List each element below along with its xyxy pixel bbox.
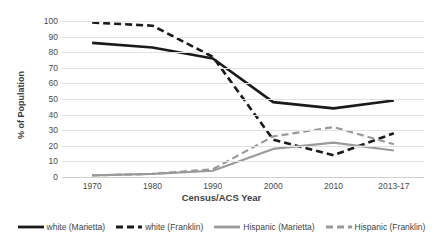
gridlines	[62, 21, 424, 177]
legend-swatch-icon	[214, 222, 240, 232]
legend-item[interactable]: white (Marietta)	[18, 222, 106, 232]
legend-swatch-icon	[18, 222, 44, 232]
gridline	[62, 99, 424, 100]
gridline	[62, 115, 424, 116]
y-axis-tick-label: 70	[32, 64, 58, 73]
x-axis-tick-label: 1990	[203, 182, 222, 191]
y-axis-tick-label: 50	[32, 95, 58, 104]
x-axis-tick-label: 1970	[83, 182, 102, 191]
legend-label: white (Marietta)	[47, 222, 106, 232]
gridline	[62, 161, 424, 162]
gridline	[62, 177, 424, 178]
y-axis-tick-label: 100	[32, 17, 58, 26]
legend-item[interactable]: Hispanic (Franklin)	[326, 222, 426, 232]
x-axis-title: Census/ACS Year	[0, 192, 443, 203]
x-axis-tick-label: 2010	[324, 182, 343, 191]
y-axis-tick-label: 90	[32, 32, 58, 41]
gridline	[62, 37, 424, 38]
y-axis-title: % of Population	[14, 50, 28, 160]
x-axis-tick-label: 2013-17	[378, 182, 409, 191]
gridline	[62, 83, 424, 84]
x-axis-tick-label: 2000	[264, 182, 283, 191]
y-axis-tick-label: 0	[32, 173, 58, 182]
gridline	[62, 130, 424, 131]
y-axis-tick-label: 80	[32, 48, 58, 57]
legend-item[interactable]: white (Franklin)	[116, 222, 203, 232]
gridline	[62, 68, 424, 69]
y-axis-tick-label: 40	[32, 110, 58, 119]
legend-swatch-icon	[326, 222, 352, 232]
legend-label: Hispanic (Franklin)	[355, 222, 426, 232]
legend-label: white (Franklin)	[145, 222, 203, 232]
legend-swatch-icon	[116, 222, 142, 232]
line-chart: % of Population 1009080706050403020100 1…	[0, 0, 443, 249]
x-axis-tick-label: 1980	[143, 182, 162, 191]
gridline	[62, 21, 424, 22]
plot-area	[62, 21, 424, 177]
y-axis-tick-label: 30	[32, 126, 58, 135]
legend-item[interactable]: Hispanic (Marietta)	[214, 222, 314, 232]
gridline	[62, 52, 424, 53]
y-axis-tick-labels: 1009080706050403020100	[32, 21, 58, 177]
y-axis-tick-label: 10	[32, 157, 58, 166]
y-axis-tick-label: 20	[32, 142, 58, 151]
gridline	[62, 146, 424, 147]
chart-legend: white (Marietta)white (Franklin)Hispanic…	[0, 222, 443, 232]
y-axis-tick-label: 60	[32, 79, 58, 88]
legend-label: Hispanic (Marietta)	[243, 222, 314, 232]
